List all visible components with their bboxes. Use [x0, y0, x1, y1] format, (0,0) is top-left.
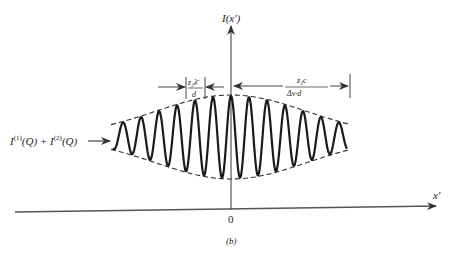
coherence-width-numerator: z₂c [296, 76, 307, 85]
input-intensity-label: I(1)(Q) + I(2)(Q) [9, 134, 77, 148]
interference-figure: x' 0 I(x') I(1)(Q) + I(2)(Q) z₂λ̄ d z₂c … [0, 0, 456, 253]
x-axis [15, 206, 436, 212]
y-axis-label: I(x') [221, 12, 241, 25]
fringe-spacing-numerator: z₂λ̄ [187, 78, 199, 87]
coherence-width-denominator: Δν·d [286, 89, 302, 98]
fringe-spacing-denominator: d [192, 90, 197, 99]
figure-caption: (b) [226, 236, 237, 246]
x-axis-label: x' [432, 189, 441, 201]
origin-label: 0 [228, 213, 234, 225]
interference-fringes [113, 96, 347, 178]
coherence-width-dimension: z₂c Δν·d [234, 74, 350, 98]
